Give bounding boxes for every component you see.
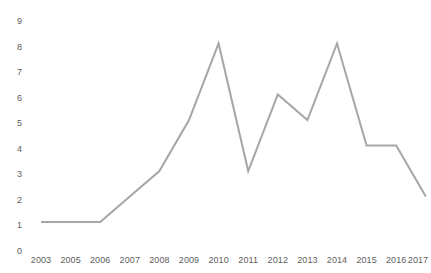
line-chart: 9 8 7 6 5 4 3 2 1 0 2003 2005 2006 2007 …	[0, 0, 431, 273]
x-axis-tick-label: 2011	[238, 256, 258, 265]
x-axis-tick-label: 2015	[356, 256, 376, 265]
x-axis-tick-label: 2008	[149, 256, 169, 265]
x-axis-tick-label: 2012	[268, 256, 288, 265]
x-axis-tick-label: 2014	[327, 256, 347, 265]
x-axis-tick-label: 2006	[90, 256, 110, 265]
x-axis-tick-label: 2016	[386, 256, 406, 265]
x-axis-tick-label: 2013	[297, 256, 317, 265]
x-axis-tick-label: 2003	[31, 256, 51, 265]
x-axis: 2003 2005 2006 2007 2008 2009 2010 2011 …	[0, 0, 431, 273]
x-axis-tick-label: 2009	[179, 256, 199, 265]
x-axis-tick-label: 2017	[408, 256, 428, 265]
x-axis-tick-label: 2005	[60, 256, 80, 265]
x-axis-tick-label: 2007	[120, 256, 140, 265]
x-axis-tick-label: 2010	[208, 256, 228, 265]
